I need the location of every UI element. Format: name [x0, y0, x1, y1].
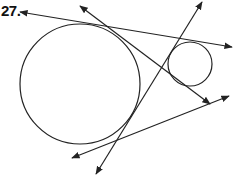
small-circle	[168, 42, 212, 86]
external-tangent-bottom	[72, 96, 229, 158]
internal-tangent-2	[96, 2, 202, 174]
external-tangent-top	[20, 12, 232, 47]
large-circle	[20, 24, 140, 144]
tangent-circles-diagram	[0, 0, 239, 177]
